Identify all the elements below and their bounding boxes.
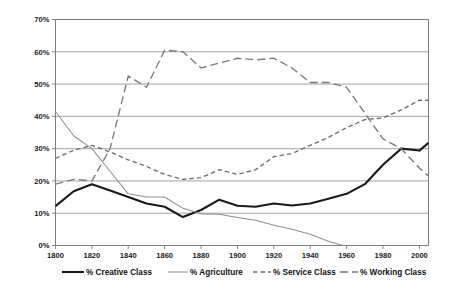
y-axis-tick-label: 30% (34, 144, 49, 153)
x-axis-tick-label: 1980 (375, 251, 392, 260)
y-axis-tick-label: 20% (34, 177, 49, 186)
x-axis-tick-label: 1840 (120, 251, 137, 260)
legend-label-3[interactable]: % Working Class (360, 268, 427, 277)
x-axis-tick-label: 2000 (411, 251, 428, 260)
chart-container: 0%10%20%30%40%50%60%70% 1800182018401860… (0, 0, 451, 295)
x-axis-tick-label: 1820 (83, 251, 100, 260)
line-chart: 0%10%20%30%40%50%60%70% 1800182018401860… (0, 0, 451, 295)
x-axis-tick-label: 1880 (193, 251, 210, 260)
y-axis-tick-label: 10% (34, 209, 49, 218)
x-axis-tick-label: 1860 (156, 251, 173, 260)
legend-label-2[interactable]: % Service Class (273, 268, 336, 277)
x-axis-tick-label: 1920 (265, 251, 282, 260)
y-axis-tick-label: 70% (34, 15, 49, 24)
x-axis-tick-label: 1800 (47, 251, 64, 260)
x-axis-tick-label: 1900 (229, 251, 246, 260)
x-axis-tick-label: 1940 (302, 251, 319, 260)
legend-label-0[interactable]: % Creative Class (86, 268, 152, 277)
y-axis-tick-label: 0% (39, 241, 50, 250)
x-axis-tick-label: 1960 (338, 251, 355, 260)
legend-label-1[interactable]: % Agriculture (190, 268, 243, 277)
y-axis-tick-label: 60% (34, 48, 49, 57)
y-axis-tick-label: 40% (34, 112, 49, 121)
y-axis-tick-label: 50% (34, 80, 49, 89)
